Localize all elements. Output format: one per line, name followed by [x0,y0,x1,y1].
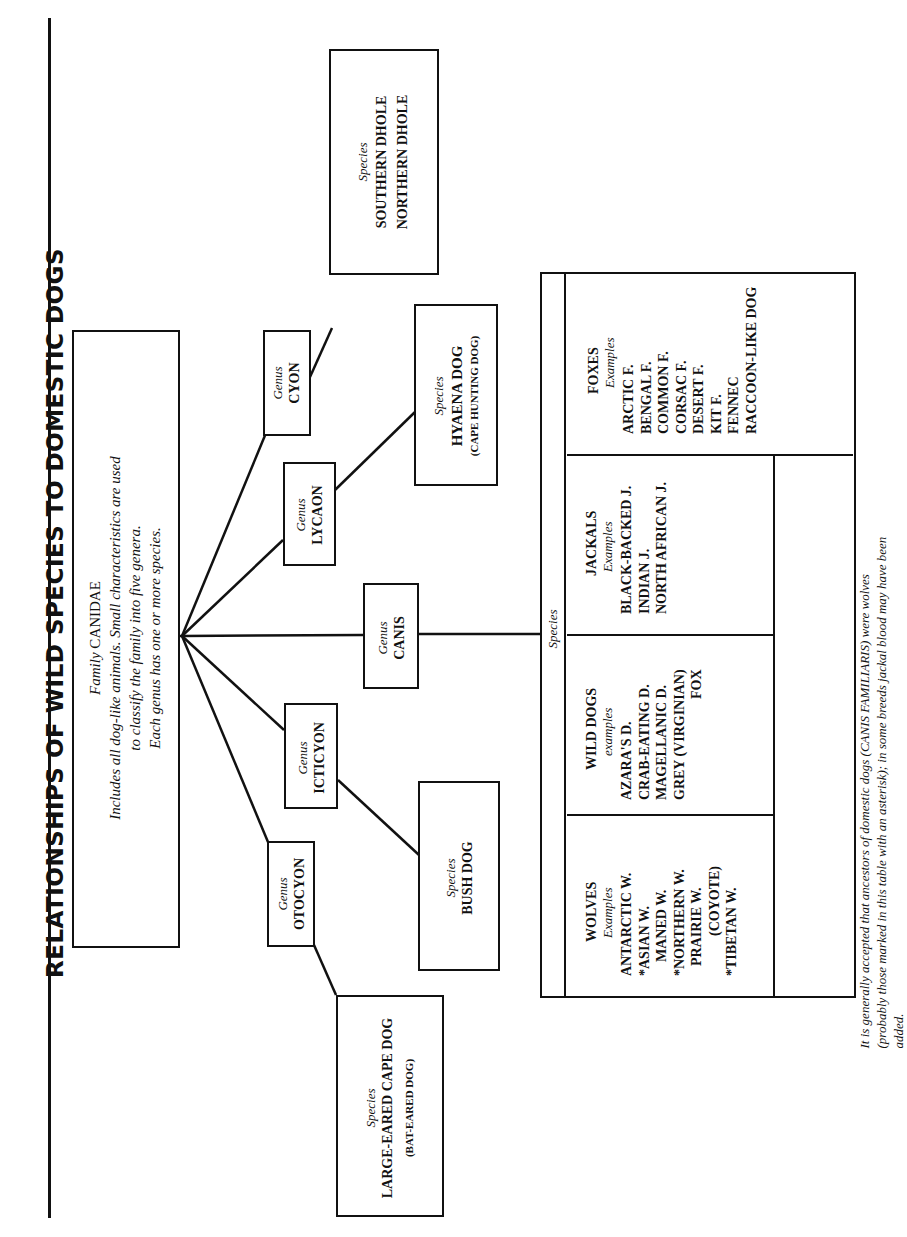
list-item: BENGAL F. [638,287,656,434]
genus-box-otocyon: Genus OTOCYON [267,841,315,947]
list-item: COMMON F. [655,287,673,434]
genus-name: ICTICYON [311,722,328,794]
list-item: BLACK-BACKED J. [618,482,636,614]
species-label: Species [355,143,371,182]
genus-label: Genus [293,498,309,531]
list-item: RACCOON-LIKE DOG [743,287,761,434]
genus-name: LYCAON [309,485,326,544]
species-alt-name: (BAT-EARED DOG) [402,1059,417,1157]
family-desc-2: to classify the family into five genera. [125,525,145,750]
genus-box-canis: Genus CANIS [363,583,419,689]
species-alt-name: (CAPE HUNTING DOG) [467,336,482,456]
list-item: DESERT F. [690,287,708,434]
genus-label: Genus [275,877,291,910]
group-name: WOLVES [583,882,600,942]
species-box-cyon: Species SOUTHERN DHOLE NORTHERN DHOLE [329,49,439,275]
group-list: AZARA'S D. CRAB-EATING D. MAGELLANIC D. … [618,669,706,800]
list-item: *ASIAN W. [636,866,654,976]
group-name: FOXES [585,347,602,394]
species-box-lycaon: Species HYAENA DOG (CAPE HUNTING DOG) [414,304,498,486]
examples-label: Examples [600,521,616,572]
list-item: AZARA'S D. [618,669,636,800]
genus-name: CYON [286,362,303,403]
family-desc-3: Each genus has one or more species. [145,527,165,748]
genus-box-cyon: Genus CYON [263,330,311,436]
list-item: NORTH AFRICAN J. [653,482,671,614]
group-list: ARCTIC F. BENGAL F. COMMON F. CORSAC F. … [620,287,760,434]
species-box-icticyon: Species BUSH DOG [418,781,500,971]
group-cell-foxes: FOXES Examples ARCTIC F. BENGAL F. COMMO… [567,274,853,456]
family-label: Family [87,652,103,695]
species-label: Species [363,1089,379,1128]
group-list: BLACK-BACKED J. INDIAN J. NORTH AFRICAN … [618,482,671,614]
species-name: NORTHERN DHOLE [392,95,413,229]
genus-label: Genus [270,366,286,399]
examples-label: Examples [600,887,616,938]
genus-box-icticyon: Genus ICTICYON [284,703,338,809]
genus-label: Genus [295,741,311,774]
species-box-otocyon: Species LARGE-EARED CAPE DOG (BAT-EARED … [336,995,444,1217]
list-item: FOX [688,669,706,800]
list-item: INDIAN J. [636,482,654,614]
genus-name: CANIS [391,616,408,660]
species-strip-label: Species [543,589,563,669]
family-box: Family CANIDAE Includes all dog-like ani… [72,330,180,948]
list-item: GREY (VIRGINIAN) [671,669,689,800]
species-name: SOUTHERN DHOLE [371,96,392,229]
species-name: BUSH DOG [459,841,476,915]
list-item: ARCTIC F. [620,287,638,434]
species-strip: Species [542,274,566,996]
group-name: WILD DOGS [583,688,600,770]
species-label: Species [443,859,459,898]
group-name: JACKALS [583,511,600,576]
list-item: *NORTHERN W. [671,866,689,976]
canis-species-table: Species FOXES Examples ARCTIC F. BENGAL … [540,272,856,998]
examples-label: examples [600,708,616,756]
family-heading: Family CANIDAE [85,581,105,695]
list-item: CRAB-EATING D. [636,669,654,800]
species-name: HYAENA DOG [447,346,467,447]
genus-box-lycaon: Genus LYCAON [283,462,336,566]
species-label: Species [431,377,447,416]
list-item: FENNEC [725,287,743,434]
examples-label: Examples [602,337,618,388]
list-item: CORSAC F. [673,287,691,434]
note-cell: It is generally accepted that ancestors … [776,456,853,996]
family-name: CANIDAE [87,581,103,649]
list-item: PRAIRIE W. [688,866,706,976]
family-desc-1: Includes all dog-like animals. Small cha… [105,456,125,820]
list-item: MANED W. [653,866,671,976]
list-item: ANTARCTIC W. [618,866,636,976]
genus-label: Genus [375,621,391,654]
list-item: MAGELLANIC D. [653,669,671,800]
species-name: LARGE-EARED CAPE DOG [379,1018,396,1198]
ancestry-note: It is generally accepted that ancestors … [706,529,907,1049]
list-item: KIT F. [708,287,726,434]
genus-name: OTOCYON [291,858,308,930]
